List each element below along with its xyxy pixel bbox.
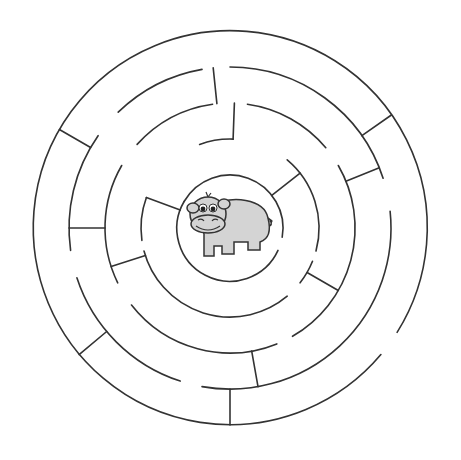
maze-radial-wall [307,273,338,291]
maze-ring-wall [144,251,287,317]
maze-radial-wall [213,68,217,104]
maze-radial-wall [146,198,180,210]
maze-radial-wall [362,115,392,136]
maze-radial-wall [272,173,300,195]
maze-ring-wall [293,166,356,337]
maze-board [0,0,461,460]
maze-ring-wall [118,69,202,112]
maze-ring-wall [300,261,312,283]
maze-ring-wall [132,305,277,353]
maze-radial-wall [346,168,379,182]
maze-ring-wall [247,104,325,148]
maze-ring-wall [200,139,234,144]
maze-ring-wall [287,160,319,251]
maze-radial-wall [252,351,258,387]
maze-ring-wall [137,104,213,144]
maze-ring-wall [77,278,180,381]
maze-radial-wall [79,332,107,355]
maze-radial-wall [233,103,234,139]
maze-radial-wall [59,130,90,148]
maze-ring-wall [230,67,383,178]
hippo-icon [187,192,273,256]
maze-ring-wall [141,198,146,241]
maze-ring-wall [69,136,98,251]
maze-radial-wall [111,256,145,267]
